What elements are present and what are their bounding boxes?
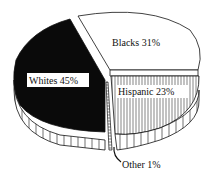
label-whites: Whites 45%: [29, 75, 78, 86]
pie-chart: Whites 45% Blacks 31% Hispanic 23% Other…: [0, 0, 211, 181]
label-hispanic: Hispanic 23%: [118, 86, 174, 97]
slice-other: [106, 82, 112, 150]
label-other: Other 1%: [122, 159, 161, 170]
label-blacks: Blacks 31%: [112, 37, 160, 48]
